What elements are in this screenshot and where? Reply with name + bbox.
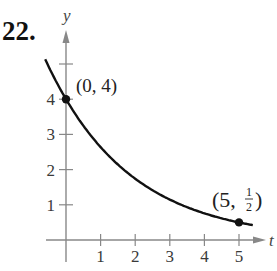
y-tick-label: 4 (47, 90, 56, 109)
x-tick-label: 3 (166, 247, 175, 266)
x-tick-label: 5 (235, 247, 244, 266)
x-tick-label: 2 (131, 247, 140, 266)
x-axis-arrow-icon (253, 237, 266, 244)
svg-text:): ) (255, 187, 262, 212)
x-axis-label: t (269, 231, 275, 250)
point-label-5-half: (5, 1 2 ) (212, 185, 262, 214)
svg-text:2: 2 (246, 200, 252, 214)
y-tick-label: 2 (47, 161, 56, 180)
svg-text:(5,: (5, (212, 187, 236, 212)
chart: 22. y t 123451234 (0, 4) (5, 1 2 ) (0, 0, 277, 271)
x-tick-label: 4 (200, 247, 209, 266)
svg-text:1: 1 (246, 185, 252, 199)
y-axis-arrow-icon (63, 30, 70, 43)
y-tick-label: 1 (47, 196, 56, 215)
problem-number: 22. (2, 16, 36, 46)
y-axis-label: y (61, 6, 71, 25)
y-tick-label: 3 (47, 125, 56, 144)
data-point (62, 95, 70, 103)
point-label-0-4: (0, 4) (76, 75, 117, 97)
x-tick-label: 1 (96, 247, 105, 266)
data-point (235, 218, 243, 226)
